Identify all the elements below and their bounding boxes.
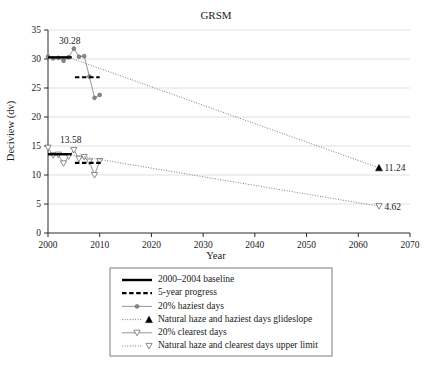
data-point-0-7 <box>82 54 86 58</box>
y-tick-label-30: 30 <box>32 54 42 64</box>
legend-marker-haziest-circle-icon <box>135 305 139 309</box>
chart-page: GRSM 05101520253035 20002010202020302040… <box>0 0 433 366</box>
page-title: GRSM <box>200 9 231 21</box>
y-tick-label-35: 35 <box>32 25 42 35</box>
legend-label-0: 2000–2004 baseline <box>158 274 234 284</box>
haziest-baseline-value: 30.28 <box>59 36 81 46</box>
clearest-baseline-value: 13.58 <box>60 135 82 145</box>
legend-label-1: 5-year progress <box>158 287 217 297</box>
data-point-0-5 <box>72 47 76 51</box>
deciview-trend-chart: GRSM 05101520253035 20002010202020302040… <box>0 0 433 366</box>
y-tick-label-15: 15 <box>32 141 42 151</box>
y-tick-label-5: 5 <box>36 199 41 209</box>
y-tick-label-25: 25 <box>32 83 42 93</box>
y-tick-label-20: 20 <box>32 112 42 122</box>
chart-legend: 2000–2004 baseline5-year progress20% haz… <box>110 268 332 356</box>
y-tick-label-0: 0 <box>36 228 41 238</box>
x-tick-label-2000: 2000 <box>39 240 58 250</box>
x-tick-label-2040: 2040 <box>245 240 264 250</box>
data-point-0-10 <box>98 93 102 97</box>
x-tick-label-2020: 2020 <box>142 240 161 250</box>
x-tick-label-2030: 2030 <box>194 240 213 250</box>
data-point-0-6 <box>77 55 81 59</box>
legend-label-5: Natural haze and clearest days upper lim… <box>158 340 318 350</box>
clearest-glideslope-endpoint-value: 4.62 <box>384 202 401 212</box>
x-tick-label-2070: 2070 <box>401 240 420 250</box>
y-tick-label-10: 10 <box>32 170 42 180</box>
y-axis-title: Deciview (dv) <box>5 100 17 161</box>
legend-label-3: Natural haze and haziest days glideslope <box>158 314 312 324</box>
legend-label-2: 20% haziest days <box>158 301 224 311</box>
x-tick-label-2010: 2010 <box>90 240 109 250</box>
data-point-0-9 <box>93 96 97 100</box>
haziest-glideslope-endpoint-value: 11.24 <box>384 163 405 173</box>
data-point-0-3 <box>62 59 66 63</box>
x-tick-label-2050: 2050 <box>297 240 316 250</box>
x-axis-title: Year <box>206 250 226 261</box>
legend-label-4: 20% clearest days <box>158 327 227 337</box>
x-tick-label-2060: 2060 <box>349 240 368 250</box>
